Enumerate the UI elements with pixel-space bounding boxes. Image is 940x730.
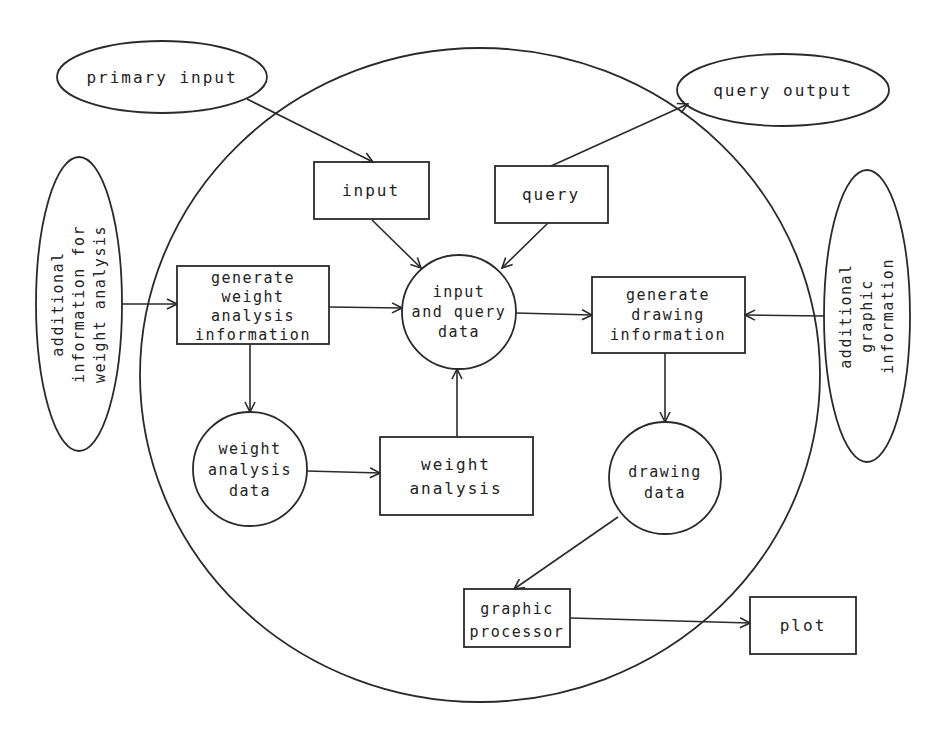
flow-input-to-iq-data — [372, 220, 421, 268]
query-output-label: query output — [713, 81, 853, 100]
gen-weight-line-3: analysis — [211, 307, 295, 325]
process-input: input — [314, 162, 429, 219]
flow-drawing-data-to-graphic-processor — [514, 517, 618, 589]
wa-data-line-1: weight — [218, 440, 281, 458]
graphic-processor-line-2: processor — [470, 623, 565, 641]
graphic-processor-line-1: graphic — [480, 600, 554, 618]
additional-graphic-info-line-3: information — [879, 258, 897, 374]
flows — [122, 99, 824, 623]
gen-weight-line-2: weight — [221, 288, 284, 306]
input-process-label: input — [342, 181, 400, 200]
wa-data-line-3: data — [229, 482, 271, 500]
datastore-drawing-data: drawing data — [609, 422, 721, 534]
additional-weight-info-line-3: weight analysis — [91, 225, 109, 383]
flow-add-graphic-info-to-gen-drawing — [745, 315, 824, 316]
gen-drawing-line-2: drawing — [631, 306, 705, 324]
additional-weight-info-line-2: information for — [70, 225, 88, 383]
flow-query-to-query-output — [551, 104, 688, 166]
process-query: query — [495, 166, 608, 223]
flow-graphic-processor-to-plot — [570, 618, 750, 623]
primary-input-label: primary input — [86, 68, 237, 87]
gen-weight-line-4: information — [195, 326, 311, 344]
process-generate-weight-analysis-information: generate weight analysis information — [177, 266, 329, 344]
flow-primary-input-to-input — [247, 99, 373, 162]
flow-iq-data-to-gen-drawing — [516, 313, 592, 315]
external-primary-input: primary input — [57, 41, 267, 113]
iq-data-line-3: data — [438, 323, 480, 341]
iq-data-line-2: and query — [412, 303, 507, 321]
drawing-data-line-1: drawing — [628, 463, 702, 481]
external-plot: plot — [750, 597, 856, 654]
flow-wa-data-to-weight-analysis — [307, 471, 380, 473]
external-additional-graphic-info: additional graphic information — [824, 170, 910, 462]
flow-gen-weight-to-iq-data — [329, 307, 402, 308]
external-additional-weight-info: additional information for weight analys… — [36, 157, 122, 451]
flow-query-to-iq-data — [502, 223, 548, 268]
gen-drawing-line-3: information — [610, 326, 726, 344]
iq-data-line-1: input — [433, 283, 486, 301]
gen-weight-line-1: generate — [211, 269, 295, 287]
process-generate-drawing-information: generate drawing information — [592, 277, 745, 353]
additional-weight-info-line-1: additional — [49, 251, 67, 356]
process-weight-analysis: weight analysis — [380, 437, 533, 515]
additional-graphic-info-line-1: additional — [837, 263, 855, 368]
datastore-input-and-query-data: input and query data — [402, 255, 516, 369]
datastore-weight-analysis-data: weight analysis data — [193, 412, 307, 526]
plot-label: plot — [780, 616, 827, 635]
data-flow-diagram: primary input query output additional in… — [0, 0, 940, 730]
process-graphic-processor: graphic processor — [464, 589, 570, 647]
external-query-output: query output — [677, 54, 889, 126]
weight-analysis-line-1: weight — [421, 455, 491, 474]
query-process-label: query — [522, 185, 580, 204]
weight-analysis-line-2: analysis — [409, 479, 502, 498]
wa-data-line-2: analysis — [208, 461, 292, 479]
gen-drawing-line-1: generate — [626, 286, 710, 304]
drawing-data-line-2: data — [644, 484, 686, 502]
additional-graphic-info-line-2: graphic — [858, 279, 876, 353]
